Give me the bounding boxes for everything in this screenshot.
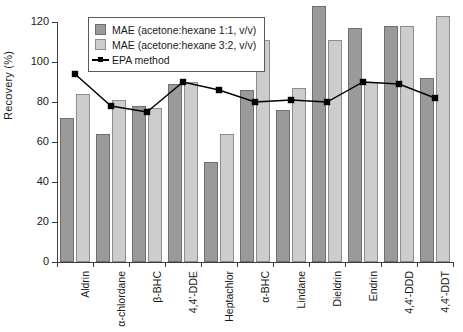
line-marker: [252, 99, 258, 105]
y-tick-label: 0: [43, 255, 49, 267]
line-marker: [108, 103, 114, 109]
line-marker: [72, 71, 78, 77]
y-tick-label: 80: [37, 95, 49, 107]
x-category-label: Dieldrin: [331, 271, 343, 307]
y-tick-label: 40: [37, 175, 49, 187]
x-category-label: α-BHC: [259, 271, 271, 303]
x-tick: [453, 262, 454, 267]
x-category-label: Aldrin: [79, 271, 91, 298]
x-category-label: 4,4'-DDT: [439, 271, 451, 313]
y-tick-label: 100: [31, 55, 49, 67]
legend-swatch-dark-icon: [95, 24, 106, 35]
x-category-label: 4,4'-DDE: [187, 271, 199, 313]
chart-legend: MAE (acetone:hexane 1:1, v/v) MAE (aceto…: [88, 17, 265, 72]
y-tick-label: 120: [31, 15, 49, 27]
x-category-label: α-chlordane: [115, 271, 127, 327]
line-marker: [180, 79, 186, 85]
legend-label-mae-3-2: MAE (acetone:hexane 3:2, v/v): [112, 39, 256, 51]
legend-item-mae-1-1: MAE (acetone:hexane 1:1, v/v): [95, 22, 256, 37]
legend-swatch-light-icon: [95, 39, 106, 50]
legend-line-square-icon: [95, 54, 106, 65]
y-axis-title: Recovery (%): [2, 0, 14, 120]
x-category-label: Endrin: [367, 271, 379, 301]
epa-method-polyline: [75, 74, 435, 112]
x-category-label: Lindane: [295, 271, 307, 308]
line-marker: [144, 109, 150, 115]
line-marker: [216, 87, 222, 93]
line-marker: [432, 95, 438, 101]
y-tick-label: 60: [37, 135, 49, 147]
y-tick-label: 20: [37, 215, 49, 227]
legend-label-mae-1-1: MAE (acetone:hexane 1:1, v/v): [112, 24, 256, 36]
legend-item-epa-method: EPA method: [95, 52, 256, 67]
line-marker: [396, 81, 402, 87]
x-category-label: Heptachlor: [223, 271, 235, 322]
chart-figure: Recovery (%) 020406080100120 Aldrinα-chl…: [0, 0, 463, 332]
x-category-label: β-BHC: [151, 271, 163, 303]
line-marker: [324, 99, 330, 105]
line-marker: [360, 79, 366, 85]
line-marker: [288, 97, 294, 103]
legend-item-mae-3-2: MAE (acetone:hexane 3:2, v/v): [95, 37, 256, 52]
legend-label-epa-method: EPA method: [112, 54, 170, 66]
x-category-label: 4,4'-DDD: [403, 271, 415, 314]
